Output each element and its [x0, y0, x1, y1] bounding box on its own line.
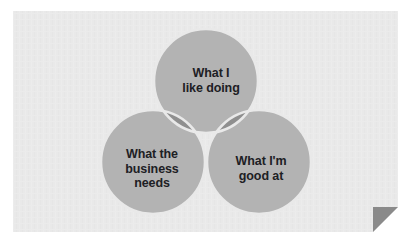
- screenshot-root: What I like doing What the business need…: [0, 0, 416, 247]
- page-curl-icon: [373, 207, 398, 232]
- card-surface: [13, 11, 398, 232]
- paper-card: What I like doing What the business need…: [13, 11, 398, 232]
- card-background: [13, 11, 398, 232]
